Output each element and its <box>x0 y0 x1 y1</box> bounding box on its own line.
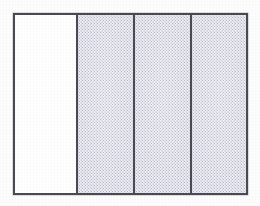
diagram-canvas: Panel 1 Panel 2 Panel 3 Panel 4 <box>0 0 260 206</box>
panel-4[interactable]: Panel 4 <box>190 15 246 193</box>
panel-frame: Panel 1 Panel 2 Panel 3 Panel 4 <box>13 13 248 195</box>
panel-2[interactable]: Panel 2 <box>76 15 133 193</box>
panel-1[interactable]: Panel 1 <box>15 15 76 193</box>
panel-3[interactable]: Panel 3 <box>133 15 190 193</box>
